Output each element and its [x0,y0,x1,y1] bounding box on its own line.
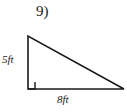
right-angle-marker-icon [28,82,35,89]
triangle-outline [28,36,124,89]
vertical-leg-measure-label: 5ft [2,54,14,65]
horizontal-leg-measure-label: 8ft [57,94,69,105]
geometry-figure: 9) 5ft 8ft [0,0,127,112]
